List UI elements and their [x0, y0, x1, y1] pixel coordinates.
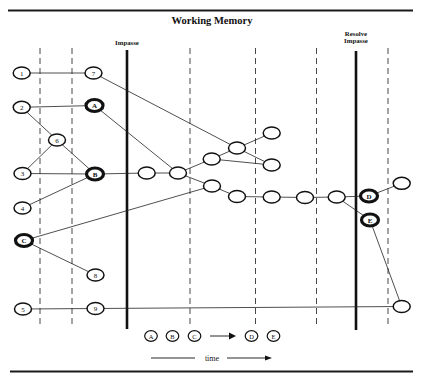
node-D: D [361, 190, 378, 202]
node-ellipse [170, 167, 187, 179]
legend-label: A [149, 333, 154, 340]
node-ellipse [203, 153, 220, 165]
legend-label: D [249, 333, 254, 340]
node-5: 5 [15, 303, 32, 315]
working-memory-diagram: Working Memory Impasse Resolve Impasse 1… [0, 0, 421, 376]
legend-item-D: D [245, 331, 258, 342]
node-label: 5 [21, 306, 25, 314]
edge-n7-u4 [94, 73, 238, 148]
node-7: 7 [85, 67, 102, 79]
node-label: 2 [20, 104, 24, 112]
node-ellipse [263, 127, 280, 139]
node-2: 2 [13, 101, 30, 113]
node-label: 3 [21, 170, 25, 178]
node-unlabeled [393, 301, 410, 313]
nodes: 172A63B4C859DE [13, 67, 410, 315]
time-axis-arrowhead [265, 356, 272, 361]
node-unlabeled [263, 127, 280, 139]
node-label: C [21, 237, 26, 245]
edge-nE-u13 [370, 220, 402, 307]
node-label: B [93, 171, 98, 179]
edge-nC-n8 [24, 241, 96, 276]
edge-n5-n9 [23, 309, 96, 310]
node-3: 3 [14, 168, 31, 180]
node-label: 8 [94, 272, 98, 280]
resolve-impasse-label-line1: Resolve [345, 30, 367, 37]
edge-nA-u2 [95, 106, 179, 174]
node-1: 1 [13, 67, 30, 79]
node-label: 7 [92, 70, 96, 78]
node-label: A [92, 102, 97, 110]
diagram-title: Working Memory [172, 15, 254, 26]
node-A: A [86, 100, 103, 112]
node-ellipse [297, 192, 314, 204]
node-label: 4 [21, 205, 25, 213]
node-9: 9 [87, 303, 104, 315]
resolve-impasse-label-line2: Impasse [344, 37, 368, 44]
legend-label: C [192, 333, 196, 340]
time-axis-label: time [205, 354, 220, 363]
impasse-label: Impasse [115, 39, 139, 46]
node-ellipse [328, 191, 345, 203]
node-unlabeled [138, 167, 155, 179]
node-unlabeled [297, 192, 314, 204]
node-ellipse [229, 142, 246, 154]
node-unlabeled [229, 191, 246, 203]
legend-item-A: A [145, 331, 158, 342]
node-C: C [16, 235, 33, 247]
legend-label: B [170, 333, 175, 340]
node-label: D [366, 193, 371, 201]
node-ellipse [393, 177, 410, 189]
node-unlabeled [204, 180, 221, 192]
node-unlabeled [393, 177, 410, 189]
legend-item-C: C [188, 331, 201, 342]
node-B: B [87, 168, 104, 180]
node-ellipse [263, 159, 280, 171]
legend-transition-arrowhead-icon [229, 333, 236, 340]
node-ellipse [229, 191, 246, 203]
node-unlabeled [263, 191, 280, 203]
node-unlabeled [203, 153, 220, 165]
node-unlabeled [229, 142, 246, 154]
node-label: 9 [94, 305, 98, 313]
legend-label: E [272, 333, 276, 340]
node-E: E [362, 214, 379, 226]
edge-n3-nB [23, 174, 96, 175]
node-label: E [368, 217, 373, 225]
node-unlabeled [328, 191, 345, 203]
time-axis: time [151, 354, 272, 363]
edge-n4-nB [23, 174, 96, 208]
node-4: 4 [14, 202, 31, 214]
node-label: 1 [20, 70, 24, 78]
edge-n2-nA [22, 106, 95, 108]
node-unlabeled [170, 167, 187, 179]
node-ellipse [393, 301, 410, 313]
node-ellipse [263, 191, 280, 203]
node-8: 8 [87, 269, 104, 281]
node-unlabeled [263, 159, 280, 171]
node-ellipse [138, 167, 155, 179]
legend-item-E: E [267, 331, 280, 342]
legend-item-B: B [166, 331, 179, 342]
node-6: 6 [49, 134, 66, 146]
legend: ABCDE [145, 331, 280, 342]
node-ellipse [204, 180, 221, 192]
node-label: 6 [55, 137, 59, 145]
